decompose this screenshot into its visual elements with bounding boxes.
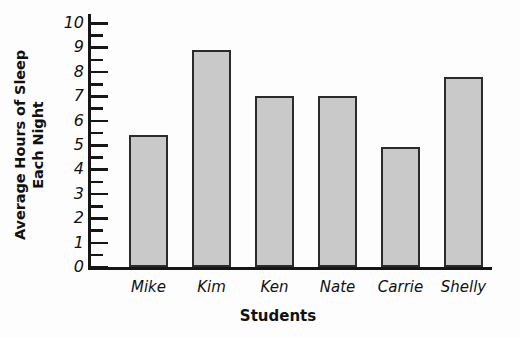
- y-axis-minor-tick: [91, 205, 103, 208]
- y-axis-minor-tick: [91, 107, 103, 110]
- y-axis-title-line-1: Average Hours of Sleep: [11, 50, 29, 240]
- y-axis-major-tick: [91, 95, 108, 98]
- y-axis-major-tick: [91, 217, 108, 220]
- y-axis-major-tick: [91, 193, 108, 196]
- x-axis-line: [88, 267, 492, 270]
- y-axis-tick-label: 0: [58, 257, 84, 276]
- x-axis-tick-labels: MikeKimKenNateCarrieShelly: [88, 278, 492, 302]
- y-axis-major-tick: [91, 71, 108, 74]
- y-axis-minor-tick: [91, 181, 103, 184]
- y-axis-title: Average Hours of Sleep Each Night: [0, 0, 58, 290]
- x-axis-tick-label: Carrie: [367, 278, 434, 296]
- y-axis-tick-label: 7: [58, 86, 84, 105]
- y-axis-major-tick: [91, 266, 108, 269]
- y-axis-major-tick: [91, 22, 108, 25]
- y-axis-major-tick: [91, 144, 108, 147]
- plot-area: 012345678910: [88, 14, 492, 270]
- y-axis-minor-tick: [91, 59, 103, 62]
- y-axis-tick-label: 10: [58, 13, 84, 32]
- y-axis-tick-label: 6: [58, 111, 84, 130]
- y-axis-minor-tick: [91, 229, 103, 232]
- y-axis-major-tick: [91, 168, 108, 171]
- x-axis-tick-label: Nate: [304, 278, 371, 296]
- y-axis-tick-label: 5: [58, 135, 84, 154]
- bar: [255, 96, 294, 267]
- y-axis-major-tick: [91, 120, 108, 123]
- x-axis-tick-label: Shelly: [430, 278, 497, 296]
- y-axis-title-line-2: Each Night: [29, 50, 47, 240]
- x-axis-tick-label: Ken: [241, 278, 308, 296]
- x-axis-tick-label: Mike: [115, 278, 182, 296]
- y-axis-tick-label: 9: [58, 37, 84, 56]
- bar: [318, 96, 357, 267]
- y-axis-tick-label: 2: [58, 208, 84, 227]
- y-axis-minor-tick: [91, 156, 103, 159]
- y-axis-minor-tick: [91, 34, 103, 37]
- bar: [192, 50, 231, 267]
- y-axis-tick-labels: 012345678910: [54, 14, 84, 270]
- y-axis-major-tick: [91, 242, 108, 245]
- y-axis-minor-tick: [91, 132, 103, 135]
- bar: [444, 77, 483, 267]
- x-axis-title: Students: [0, 307, 520, 325]
- y-axis-major-tick: [91, 46, 108, 49]
- bar-chart: Average Hours of Sleep Each Night 012345…: [0, 0, 520, 338]
- y-axis-tick-label: 4: [58, 159, 84, 178]
- y-axis-tick-label: 1: [58, 233, 84, 252]
- y-axis-minor-tick: [91, 254, 103, 257]
- y-axis-tick-label: 8: [58, 62, 84, 81]
- x-axis-tick-label: Kim: [178, 278, 245, 296]
- y-axis-minor-tick: [91, 83, 103, 86]
- y-axis-tick-label: 3: [58, 184, 84, 203]
- bar: [129, 135, 168, 267]
- bar: [381, 147, 420, 267]
